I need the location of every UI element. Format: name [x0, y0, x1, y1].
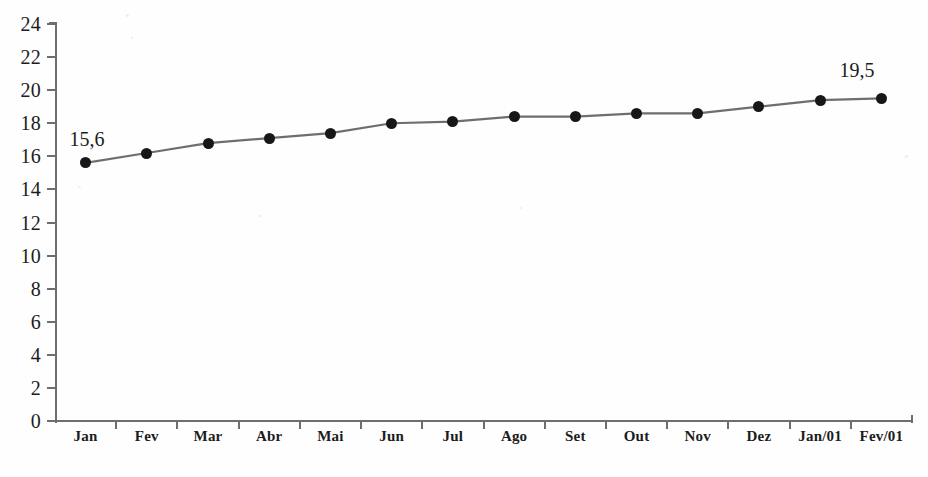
y-axis-tick	[47, 354, 56, 356]
data-point-marker	[570, 111, 581, 122]
y-axis-tick	[47, 321, 56, 323]
paper-speckle	[520, 207, 522, 209]
y-axis-tick	[47, 288, 56, 290]
y-axis-tick	[47, 255, 56, 257]
y-axis-tick	[47, 89, 56, 91]
paper-speckle	[126, 14, 129, 17]
data-point-marker	[80, 157, 91, 168]
y-axis-tick-label: 22	[0, 47, 41, 67]
y-axis-tick-label: 2	[0, 378, 41, 398]
y-axis-tick	[47, 155, 56, 157]
data-point-marker	[692, 108, 703, 119]
data-value-label: 19,5	[839, 60, 874, 80]
y-axis-tick-label: 18	[0, 113, 41, 133]
y-axis-tick	[47, 420, 56, 422]
y-axis-tick	[47, 56, 56, 58]
data-value-label: 15,6	[70, 129, 105, 149]
y-axis-tick-label: 0	[0, 411, 41, 431]
data-point-marker	[203, 138, 214, 149]
y-axis-tick	[47, 222, 56, 224]
paper-speckle	[131, 37, 133, 39]
series-line	[0, 0, 928, 477]
y-axis-tick-label: 24	[0, 14, 41, 34]
paper-speckle	[259, 215, 262, 217]
y-axis-tick-label: 8	[0, 279, 41, 299]
data-point-marker	[141, 148, 152, 159]
y-axis-tick	[47, 122, 56, 124]
x-axis-tick-label: Fev/01	[836, 428, 926, 445]
data-point-marker	[876, 93, 887, 104]
y-axis-tick-label: 16	[0, 146, 41, 166]
data-point-marker	[386, 118, 397, 129]
x-axis-end-cap	[911, 415, 913, 423]
data-point-marker	[631, 108, 642, 119]
data-point-marker	[509, 111, 520, 122]
line-chart: 024681012141618202224 JanFevMarAbrMaiJun…	[0, 0, 928, 477]
y-axis-tick-label: 12	[0, 213, 41, 233]
y-axis-tick-label: 6	[0, 312, 41, 332]
data-point-marker	[447, 116, 458, 127]
y-axis-tick	[47, 387, 56, 389]
y-axis-tick	[47, 23, 56, 25]
data-point-marker	[264, 133, 275, 144]
paper-speckle	[905, 155, 908, 158]
y-axis-tick-label: 20	[0, 80, 41, 100]
y-axis-tick	[47, 188, 56, 190]
paper-speckle	[78, 186, 81, 188]
y-axis-tick-label: 4	[0, 345, 41, 365]
y-axis-tick-label: 10	[0, 246, 41, 266]
data-point-marker	[325, 128, 336, 139]
data-point-marker	[753, 101, 764, 112]
data-point-marker	[815, 95, 826, 106]
y-axis-tick-label: 14	[0, 179, 41, 199]
